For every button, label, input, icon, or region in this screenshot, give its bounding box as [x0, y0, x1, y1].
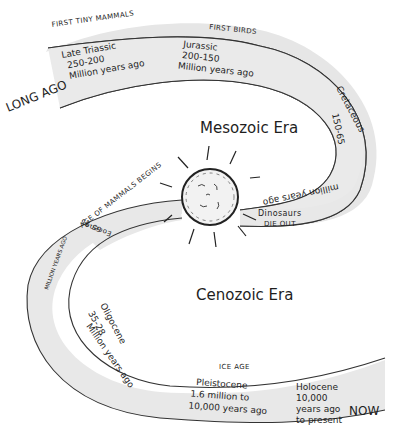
- asteroid-impact-icon: [160, 146, 260, 247]
- period-range-holocene: 10,000: [296, 393, 328, 403]
- period-unit-holocene: years ago: [296, 404, 341, 414]
- timeline-diagram: LONG AGO NOW Mesozoic Era Cenozoic Era F…: [0, 0, 401, 434]
- period-name-holocene: Holocene: [296, 382, 338, 392]
- note-ice-age: ICE AGE: [219, 363, 250, 371]
- event-label-line1: Dinosaurs: [258, 209, 302, 218]
- period-extra-holocene: to present: [296, 415, 343, 425]
- note-first-tiny-mammals: FIRST TINY MAMMALS: [51, 9, 135, 29]
- era-label-mesozoic: Mesozoic Era: [200, 119, 298, 137]
- era-label-cenozoic: Cenozoic Era: [196, 286, 293, 304]
- event-label-line2: DIE OUT: [264, 220, 296, 228]
- end-label: NOW: [349, 404, 379, 418]
